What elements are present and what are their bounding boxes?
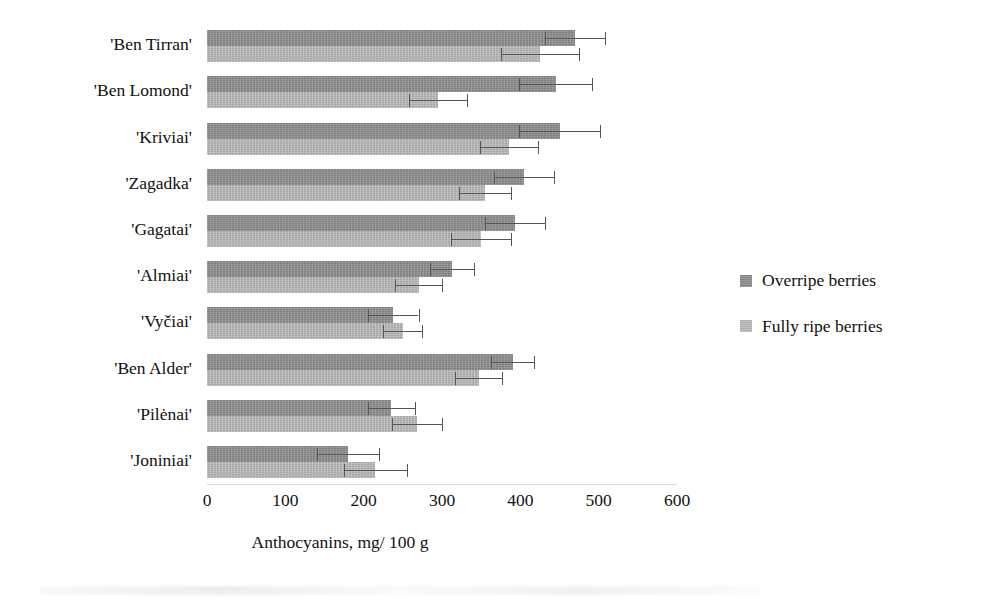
category-label: 'Gagatai' (2, 221, 192, 239)
error-bar-line (519, 84, 593, 85)
error-bar-line (392, 424, 442, 425)
bar-fully-ripe (207, 185, 485, 201)
bar-overripe (207, 123, 560, 139)
bar-group (207, 123, 677, 139)
error-bar-cap-high (422, 325, 423, 338)
x-tick-label: 200 (351, 492, 377, 510)
legend-label-overripe: Overripe berries (762, 272, 876, 290)
bar-chart: 'Ben Tirran''Ben Lomond''Kriviai''Zagadk… (0, 0, 1000, 607)
error-bar-line (455, 378, 502, 379)
error-bar-cap-high (379, 448, 380, 461)
bar-overripe (207, 215, 515, 231)
error-bar-cap-high (415, 402, 416, 415)
bar-group (207, 92, 677, 108)
bar-group (207, 446, 677, 462)
legend-label-fully-ripe: Fully ripe berries (762, 318, 883, 336)
error-bar-cap-low (392, 418, 393, 431)
bar-fully-ripe (207, 370, 479, 386)
error-bar-cap-low (383, 325, 384, 338)
bar-fully-ripe (207, 416, 417, 432)
x-tick-label: 300 (429, 492, 455, 510)
x-tick-label: 500 (586, 492, 612, 510)
error-bar-line (395, 285, 442, 286)
error-bar-cap-low (501, 48, 502, 61)
error-bar-cap-high (592, 78, 593, 91)
category-axis-labels: 'Ben Tirran''Ben Lomond''Kriviai''Zagadk… (0, 22, 200, 484)
error-bar-cap-high (442, 418, 443, 431)
error-bar-cap-high (474, 263, 475, 276)
error-bar-line (459, 193, 511, 194)
category-label: 'Almiai' (2, 267, 192, 285)
error-bar-cap-low (494, 171, 495, 184)
error-bar-cap-high (554, 171, 555, 184)
error-bar-cap-low (409, 94, 410, 107)
error-bar-cap-low (451, 233, 452, 246)
bar-group (207, 169, 677, 185)
x-tick-label: 0 (203, 492, 212, 510)
x-axis-ticks: 0100200300400500600 (0, 492, 1000, 516)
bar-overripe (207, 30, 575, 46)
bar-group (207, 416, 677, 432)
error-bar-line (451, 239, 511, 240)
error-bar-line (368, 315, 418, 316)
error-bar-cap-low (459, 187, 460, 200)
bar-group (207, 76, 677, 92)
error-bar-cap-low (519, 78, 520, 91)
error-bar-cap-high (511, 187, 512, 200)
error-bar-cap-high (579, 48, 580, 61)
category-label: 'Ben Tirran' (2, 36, 192, 54)
error-bar-cap-high (502, 372, 503, 385)
error-bar-cap-low (368, 402, 369, 415)
x-tick-label: 400 (507, 492, 533, 510)
error-bar-line (491, 362, 535, 363)
category-label: 'Joniniai' (2, 452, 192, 470)
x-axis-line (207, 484, 677, 485)
error-bar-line (344, 470, 407, 471)
category-label: 'Kriviai' (2, 129, 192, 147)
category-label: 'Ben Lomond' (2, 82, 192, 100)
error-bar-cap-high (545, 217, 546, 230)
bar-group (207, 139, 677, 155)
bar-fully-ripe (207, 46, 540, 62)
bar-overripe (207, 400, 391, 416)
bar-group (207, 215, 677, 231)
bar-overripe (207, 76, 556, 92)
category-label: 'Zagadka' (2, 175, 192, 193)
error-bar-cap-low (317, 448, 318, 461)
error-bar-cap-low (491, 356, 492, 369)
fullyripe-swatch-icon (740, 320, 752, 332)
bar-group (207, 400, 677, 416)
error-bar-line (545, 38, 605, 39)
error-bar-cap-low (519, 125, 520, 138)
error-bar-cap-low (545, 32, 546, 45)
error-bar-line (383, 331, 422, 332)
bar-group (207, 277, 677, 293)
category-label: 'Pilėnai' (2, 406, 192, 424)
error-bar-cap-low (485, 217, 486, 230)
scan-artifact (40, 586, 760, 595)
bar-fully-ripe (207, 277, 419, 293)
bar-group (207, 370, 677, 386)
bar-fully-ripe (207, 323, 403, 339)
bar-fully-ripe (207, 139, 509, 155)
bar-fully-ripe (207, 231, 481, 247)
bar-group (207, 46, 677, 62)
error-bar-cap-low (480, 141, 481, 154)
bar-group (207, 307, 677, 323)
plot-area (207, 22, 677, 484)
error-bar-cap-high (407, 464, 408, 477)
error-bar-line (485, 223, 545, 224)
x-tick-label: 100 (272, 492, 298, 510)
error-bar-line (409, 100, 467, 101)
error-bar-line (519, 131, 600, 132)
bar-group (207, 30, 677, 46)
x-axis-title: Anthocyanins, mg/ 100 g (0, 532, 680, 553)
error-bar-cap-high (419, 309, 420, 322)
category-label: 'Vyčiai' (2, 313, 192, 331)
x-tick-label: 600 (664, 492, 690, 510)
bar-overripe (207, 169, 524, 185)
error-bar-cap-low (395, 279, 396, 292)
bar-overripe (207, 307, 393, 323)
bar-group (207, 323, 677, 339)
error-bar-cap-low (455, 372, 456, 385)
